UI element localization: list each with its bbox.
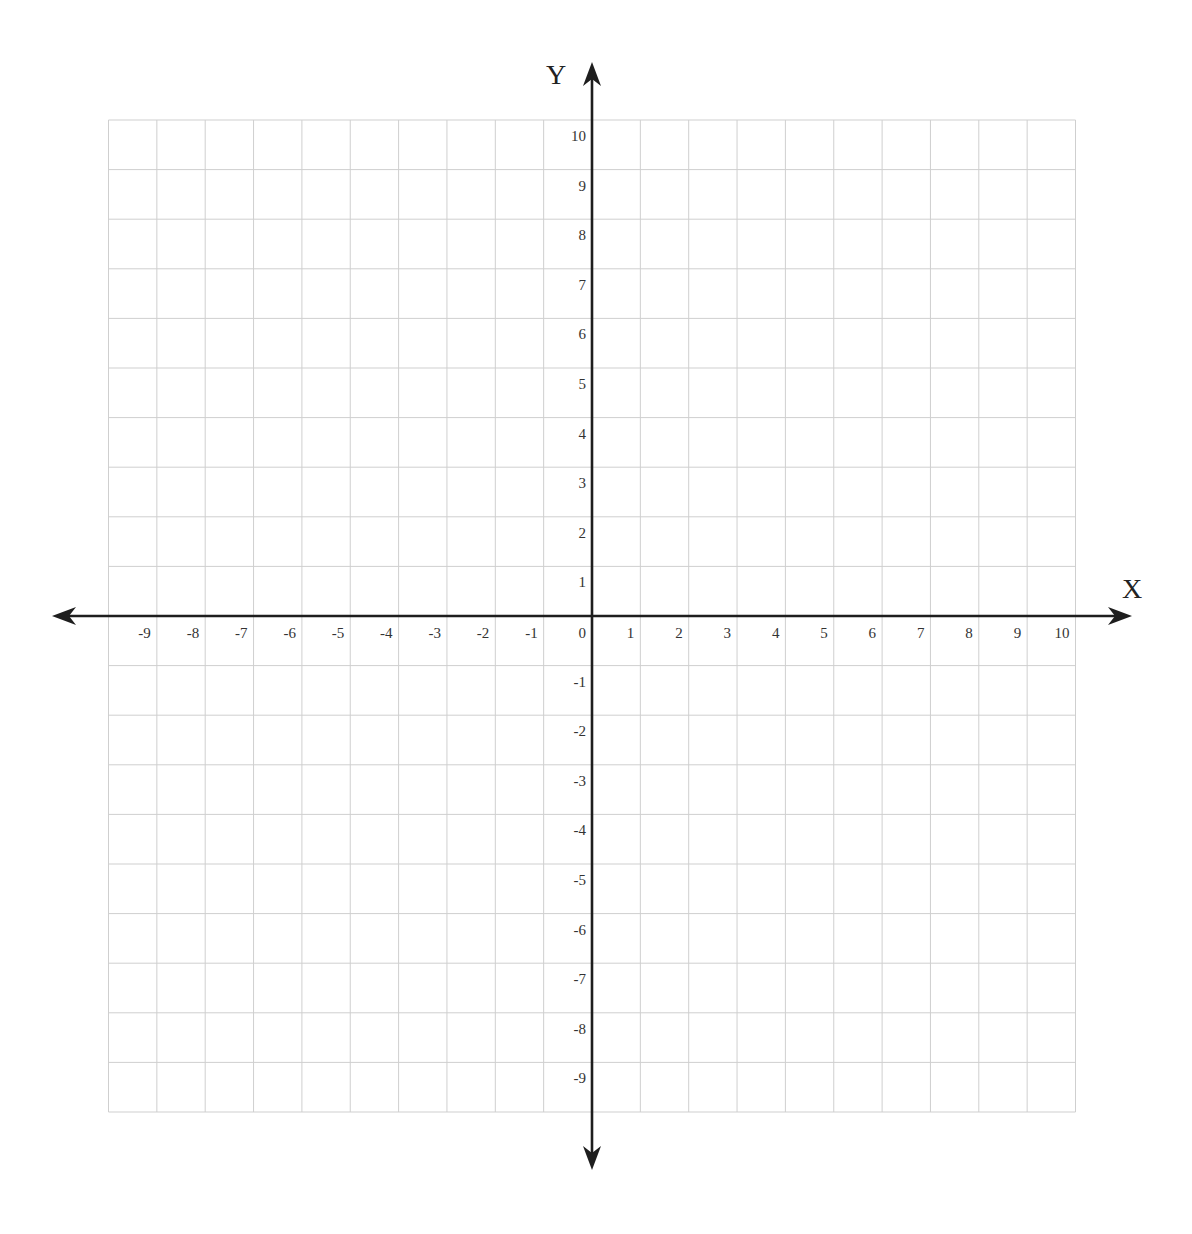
x-tick-label: 0 — [579, 625, 587, 641]
y-tick-label: -4 — [574, 822, 587, 838]
x-tick-label: -4 — [380, 625, 393, 641]
x-tick-label: 5 — [820, 625, 828, 641]
y-tick-label: -8 — [574, 1021, 587, 1037]
y-tick-label: 7 — [579, 277, 587, 293]
y-tick-label: 6 — [579, 326, 587, 342]
x-tick-label: 4 — [772, 625, 780, 641]
x-tick-label: -3 — [428, 625, 441, 641]
y-tick-label: -2 — [574, 723, 587, 739]
y-tick-label: -3 — [574, 773, 587, 789]
y-tick-label: 4 — [579, 426, 587, 442]
y-tick-label: 9 — [579, 178, 587, 194]
y-tick-label: -6 — [574, 922, 587, 938]
y-tick-label: -1 — [574, 674, 587, 690]
y-tick-label: 5 — [579, 376, 587, 392]
y-tick-label: 1 — [579, 574, 587, 590]
x-tick-label: 1 — [627, 625, 635, 641]
x-tick-label: -7 — [235, 625, 248, 641]
x-tick-label: 10 — [1055, 625, 1070, 641]
x-tick-label: -5 — [332, 625, 345, 641]
y-tick-label: 3 — [579, 475, 587, 491]
y-tick-label: 10 — [571, 128, 586, 144]
coordinate-plane: -9-8-7-6-5-4-3-2-1012345678910 109876543… — [0, 0, 1192, 1234]
x-tick-label: -8 — [187, 625, 200, 641]
x-tick-label: 6 — [869, 625, 877, 641]
x-tick-label: 3 — [724, 625, 732, 641]
x-tick-label: -9 — [138, 625, 151, 641]
x-tick-label: -2 — [477, 625, 490, 641]
x-tick-label: -6 — [283, 625, 296, 641]
x-tick-label: 9 — [1014, 625, 1022, 641]
x-tick-label: 7 — [917, 625, 925, 641]
axes — [52, 62, 1132, 1170]
x-axis-title: X — [1122, 573, 1142, 604]
y-tick-label: 8 — [579, 227, 587, 243]
y-tick-label: -5 — [574, 872, 587, 888]
y-tick-label: -7 — [574, 971, 587, 987]
y-tick-label: -9 — [574, 1070, 587, 1086]
x-tick-label: 8 — [965, 625, 973, 641]
y-axis-title: Y — [546, 59, 566, 90]
y-tick-label: 2 — [579, 525, 587, 541]
x-tick-label: 2 — [675, 625, 683, 641]
x-tick-label: -1 — [525, 625, 538, 641]
y-tick-labels: 10987654321-1-2-3-4-5-6-7-8-9 — [571, 128, 587, 1086]
x-tick-labels: -9-8-7-6-5-4-3-2-1012345678910 — [138, 625, 1069, 641]
